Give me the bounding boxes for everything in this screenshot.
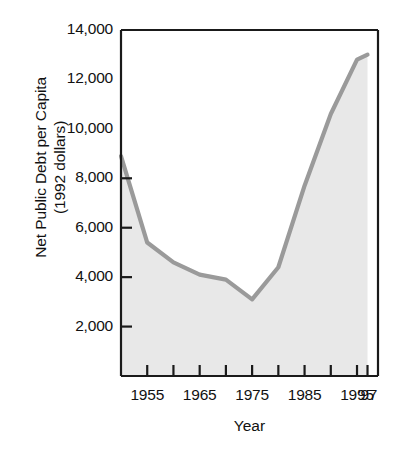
series-area-fill	[121, 55, 368, 376]
chart-figure: Net Public Debt per Capita (1992 dollars…	[0, 0, 406, 457]
plot-svg	[0, 0, 406, 457]
